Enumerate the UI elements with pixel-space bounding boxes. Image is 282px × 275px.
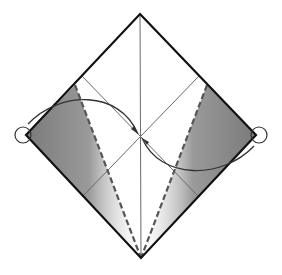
right-shaded-flap	[141, 85, 256, 258]
origami-diagram	[0, 0, 282, 275]
fold-diagram-svg	[0, 0, 282, 275]
crease-lines	[82, 14, 199, 258]
